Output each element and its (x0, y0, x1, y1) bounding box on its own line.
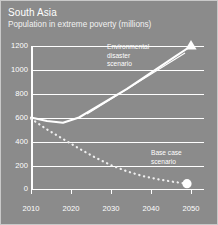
annotation-line: disaster (107, 52, 149, 61)
annotation-line: Environmental (107, 43, 149, 52)
chart-figure: South Asia Population in extreme poverty… (0, 0, 218, 225)
annotation-line: Base case (151, 149, 182, 158)
annotation-leaders (1, 1, 218, 225)
annotation-line: scenario (107, 60, 149, 69)
plot-area: 1200 1000 800 600 400 200 0 2010 20 (1, 1, 218, 225)
annotation-line: scenario (151, 158, 182, 167)
annotation-environmental-disaster: Environmental disaster scenario (107, 43, 149, 69)
annotation-base-case: Base case scenario (151, 149, 182, 166)
